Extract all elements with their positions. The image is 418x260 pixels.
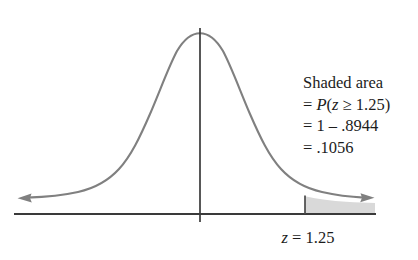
z-label-value: = 1.25 bbox=[288, 228, 334, 247]
annotation-eq-prefix: = bbox=[303, 95, 316, 114]
annotation-inequality-rest: ≥ 1.25) bbox=[338, 95, 390, 114]
z-value-label: z = 1.25 bbox=[248, 228, 368, 248]
annotation-symbol-p: P bbox=[316, 95, 326, 114]
annotation-line-probability: = P(z ≥ 1.25) bbox=[303, 94, 418, 116]
annotation-block: Shaded area = P(z ≥ 1.25) = 1 – .8944 = … bbox=[303, 72, 418, 158]
normal-distribution-figure: Shaded area = P(z ≥ 1.25) = 1 – .8944 = … bbox=[0, 0, 418, 260]
right-tail-arrowhead bbox=[360, 193, 374, 202]
annotation-line-subtraction: = 1 – .8944 bbox=[303, 115, 418, 137]
annotation-line-result: = .1056 bbox=[303, 137, 418, 159]
left-tail-arrowhead bbox=[18, 194, 32, 203]
annotation-line-shaded-area: Shaded area bbox=[303, 72, 418, 94]
